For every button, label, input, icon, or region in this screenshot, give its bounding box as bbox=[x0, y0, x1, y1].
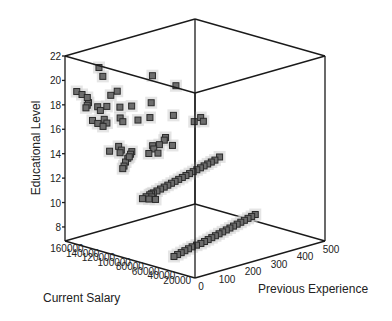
data-point bbox=[200, 118, 206, 124]
data-point bbox=[120, 119, 126, 125]
z-tick-label: 8 bbox=[55, 222, 61, 233]
data-point bbox=[84, 94, 90, 100]
z-tick-label: 10 bbox=[50, 198, 62, 209]
data-point bbox=[126, 154, 132, 160]
data-point bbox=[108, 92, 114, 98]
z-axis-title: Educational Level bbox=[29, 101, 43, 196]
data-point bbox=[117, 104, 123, 110]
data-point bbox=[156, 142, 162, 148]
y-axis-title: Previous Experience bbox=[258, 282, 368, 296]
x-axis-ticks: 1600001400001200001000008000060000400002… bbox=[50, 243, 191, 285]
data-point bbox=[146, 150, 152, 156]
data-point bbox=[169, 142, 175, 148]
data-point bbox=[155, 150, 161, 156]
z-tick-label: 14 bbox=[50, 149, 62, 160]
y-tick-label: 200 bbox=[245, 266, 262, 277]
data-point bbox=[135, 117, 141, 123]
x-axis-title: Current Salary bbox=[43, 291, 120, 305]
data-point bbox=[148, 100, 154, 106]
data-points bbox=[71, 62, 262, 263]
data-point bbox=[149, 73, 155, 79]
cube-edge bbox=[65, 19, 195, 56]
data-point bbox=[117, 150, 123, 156]
data-point bbox=[170, 112, 176, 118]
z-tick-label: 22 bbox=[50, 51, 62, 62]
z-tick-label: 16 bbox=[50, 124, 62, 135]
data-point bbox=[120, 166, 126, 172]
data-point bbox=[147, 115, 153, 121]
cube-edge bbox=[195, 56, 325, 93]
y-tick-label: 500 bbox=[323, 244, 340, 255]
data-point bbox=[107, 148, 113, 154]
data-point bbox=[129, 103, 135, 109]
z-tick-label: 20 bbox=[50, 75, 62, 86]
y-tick-label: 100 bbox=[219, 274, 236, 285]
data-point bbox=[97, 107, 103, 113]
y-tick-label: 300 bbox=[271, 259, 288, 270]
data-point bbox=[146, 196, 152, 202]
data-point bbox=[191, 119, 197, 125]
data-point bbox=[153, 196, 159, 202]
y-tick-label: 400 bbox=[297, 251, 314, 262]
data-point bbox=[139, 196, 145, 202]
data-point bbox=[171, 253, 177, 259]
data-point bbox=[104, 103, 110, 109]
data-point bbox=[114, 88, 120, 94]
scatter-3d-chart: 810121416182022 160000140000120000100000… bbox=[0, 0, 392, 321]
z-axis-ticks: 810121416182022 bbox=[50, 51, 65, 233]
data-point bbox=[83, 105, 89, 111]
data-point bbox=[100, 73, 106, 79]
x-tick-label: 20000 bbox=[163, 275, 191, 286]
z-tick-label: 18 bbox=[50, 100, 62, 111]
z-tick-label: 12 bbox=[50, 173, 62, 184]
cube-edge bbox=[65, 56, 195, 93]
data-point bbox=[100, 123, 106, 129]
cube-edge bbox=[195, 19, 325, 56]
y-tick-label: 0 bbox=[198, 281, 204, 292]
cube-edge bbox=[65, 204, 195, 241]
